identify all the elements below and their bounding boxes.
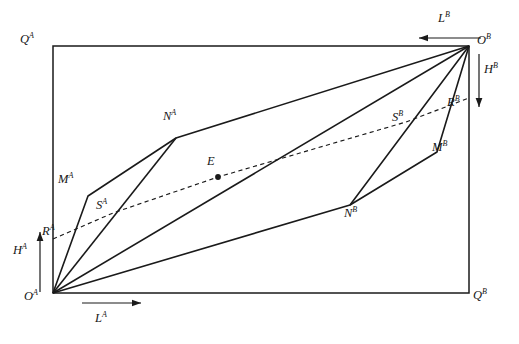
- label-OA: OA: [24, 289, 38, 303]
- label-RB: RB: [447, 95, 460, 109]
- label-LB: LB: [438, 11, 450, 25]
- label-NA: NA: [163, 109, 176, 123]
- label-OB: OB: [477, 33, 491, 47]
- label-RA: RA: [42, 224, 55, 238]
- label-QA: QA: [20, 32, 34, 46]
- label-LA: LA: [95, 311, 107, 325]
- label-NB: NB: [344, 206, 357, 220]
- diagram-canvas: QA QB OA OB MA NA RA SA MB NB RB SB E LA…: [0, 0, 519, 344]
- label-HA: HA: [13, 243, 27, 257]
- indifference-curve-A-lower: [53, 138, 176, 293]
- label-MB: MB: [432, 140, 447, 154]
- diagonal-OA-OB: [53, 46, 469, 293]
- point-E-marker: [215, 174, 221, 180]
- label-HB: HB: [484, 62, 498, 76]
- label-MA: MA: [58, 172, 73, 186]
- label-E: E: [207, 154, 215, 168]
- label-SB: SB: [392, 110, 403, 124]
- contract-curve: [53, 98, 469, 239]
- edgeworth-box-svg: [0, 0, 519, 344]
- label-SA: SA: [96, 198, 107, 212]
- label-QB: QB: [473, 288, 487, 302]
